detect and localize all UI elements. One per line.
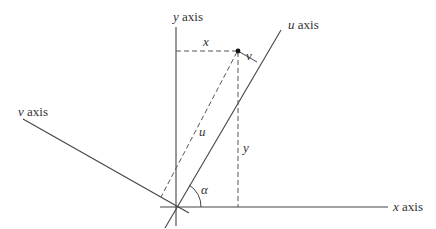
x-component-label: x	[202, 34, 209, 49]
v-component-label: v	[246, 48, 252, 63]
y-axis-label: y axis	[171, 9, 203, 24]
angle-alpha-arc	[189, 185, 201, 207]
u-component-label: u	[199, 124, 206, 139]
rotated-axes-diagram: y axis u axis v axis x axis x y u v α	[0, 0, 436, 229]
u-axis-label: u axis	[288, 17, 319, 32]
u-axis-line	[165, 30, 281, 228]
v-axis-label: v axis	[18, 104, 48, 119]
y-component-label: y	[241, 140, 249, 155]
point-marker	[236, 49, 241, 54]
x-axis-label: x axis	[392, 199, 423, 214]
v-axis-line	[23, 119, 189, 213]
angle-alpha-label: α	[201, 182, 209, 197]
